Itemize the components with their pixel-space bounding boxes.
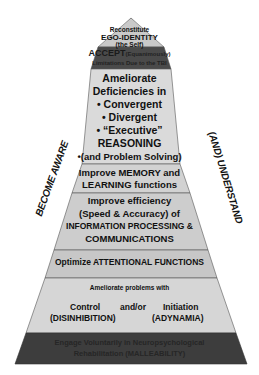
reasoning-line-3: • Convergent bbox=[0, 98, 259, 111]
accept-bold: ACCEPT bbox=[88, 48, 125, 58]
accept-line-2: Limitations Due to the TBI bbox=[0, 60, 259, 66]
processing-line-4: COMMUNICATIONS bbox=[0, 233, 259, 246]
tier-control-header: Ameliorate problems with bbox=[0, 285, 259, 292]
disinhibition-label: (DISINHIBITION) bbox=[50, 314, 116, 323]
control-header: Ameliorate problems with bbox=[90, 284, 169, 291]
reasoning-line-2: Deficiencies in bbox=[0, 85, 259, 98]
engage-line-2: Rehabilitation (MALLEABILITY) bbox=[0, 348, 259, 359]
processing-line-3: INFORMATION PROCESSING & bbox=[0, 220, 259, 233]
accept-rest: (Equanimously) bbox=[126, 51, 171, 57]
adynamia-label: (ADYNAMIA) bbox=[152, 314, 203, 323]
initiation-label: Initiation bbox=[163, 303, 198, 312]
reasoning-line-5: • “Executive” bbox=[0, 124, 259, 137]
andor-label: and/or bbox=[120, 303, 146, 312]
reasoning-line-4: • Divergent bbox=[0, 111, 259, 124]
ego-line-3: (the Self) bbox=[0, 42, 259, 49]
tier-ego-text: Reconstitute EGO-IDENTITY (the Self) bbox=[0, 27, 259, 49]
reasoning-line-1: Ameliorate bbox=[0, 72, 259, 85]
attention-line-1: Optimize ATTENTIONAL FUNCTIONS bbox=[0, 258, 259, 267]
tier-accept-text: ACCEPT(Equanimously) Limitations Due to … bbox=[0, 49, 259, 67]
engage-line-1: Engage Voluntarily in Neuropsychological bbox=[0, 337, 259, 348]
tier-attention-text: Optimize ATTENTIONAL FUNCTIONS bbox=[0, 258, 259, 267]
tier-engage-text: Engage Voluntarily in Neuropsychological… bbox=[0, 337, 259, 359]
control-label: Control bbox=[70, 303, 100, 312]
